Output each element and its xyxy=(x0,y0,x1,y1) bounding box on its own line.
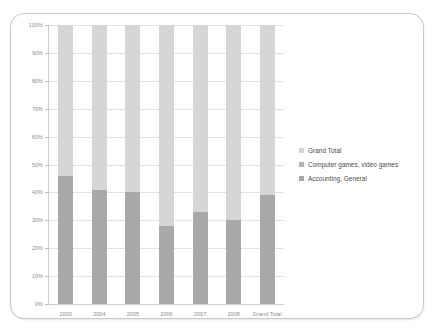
y-axis-label: 50% xyxy=(32,162,43,168)
bar-segment-lower[interactable] xyxy=(92,190,107,304)
x-axis-label: Grand Total xyxy=(253,311,282,317)
bar-slot: 2006 xyxy=(150,25,184,304)
legend-item-label: Accounting, General xyxy=(308,175,367,182)
y-axis-label: 100% xyxy=(29,22,43,28)
legend-item-label: Computer games, video games xyxy=(308,161,398,168)
y-axis-label: 0% xyxy=(35,301,43,307)
bar-segment-upper[interactable] xyxy=(260,25,275,195)
stacked-bar[interactable] xyxy=(92,25,107,304)
bar-segment-lower[interactable] xyxy=(125,192,140,304)
stacked-bar[interactable] xyxy=(226,25,241,304)
y-axis-label: 80% xyxy=(32,78,43,84)
bar-slot: 2004 xyxy=(83,25,117,304)
y-axis-tick xyxy=(45,304,49,305)
chart-legend: Grand TotalComputer games, video gamesAc… xyxy=(299,147,424,189)
y-axis-label: 60% xyxy=(32,134,43,140)
x-axis-label: 2007 xyxy=(194,311,206,317)
bar-slot: 2005 xyxy=(116,25,150,304)
legend-item[interactable]: Grand Total xyxy=(299,147,424,154)
bar-segment-lower[interactable] xyxy=(193,212,208,304)
legend-item[interactable]: Accounting, General xyxy=(299,175,424,182)
x-axis-label: 2003 xyxy=(60,311,72,317)
x-axis-label: 2004 xyxy=(93,311,105,317)
bar-segment-upper[interactable] xyxy=(226,25,241,220)
stacked-bar[interactable] xyxy=(260,25,275,304)
bar-slot: 2008 xyxy=(217,25,251,304)
bar-segment-upper[interactable] xyxy=(92,25,107,190)
plot-area: 0%10%20%30%40%50%60%70%80%90%100% 200320… xyxy=(49,25,284,304)
bar-segment-upper[interactable] xyxy=(58,25,73,176)
stacked-bar[interactable] xyxy=(58,25,73,304)
y-axis-label: 70% xyxy=(32,106,43,112)
x-axis-label: 2008 xyxy=(227,311,239,317)
y-axis-label: 40% xyxy=(32,189,43,195)
legend-swatch-icon xyxy=(299,162,304,167)
stacked-bar[interactable] xyxy=(159,25,174,304)
bar-segment-upper[interactable] xyxy=(193,25,208,212)
bar-slot: 2007 xyxy=(183,25,217,304)
y-axis-label: 90% xyxy=(32,50,43,56)
stacked-bar[interactable] xyxy=(125,25,140,304)
x-axis-label: 2005 xyxy=(127,311,139,317)
bar-slot: 2003 xyxy=(49,25,83,304)
bar-segment-lower[interactable] xyxy=(260,195,275,304)
bar-segment-upper[interactable] xyxy=(159,25,174,226)
bar-segment-lower[interactable] xyxy=(58,176,73,304)
y-axis-label: 20% xyxy=(32,245,43,251)
bar-slot: Grand Total xyxy=(250,25,284,304)
chart-card: 0%10%20%30%40%50%60%70%80%90%100% 200320… xyxy=(10,13,424,319)
x-axis-label: 2006 xyxy=(160,311,172,317)
chart-plot-wrapper: 0%10%20%30%40%50%60%70%80%90%100% 200320… xyxy=(11,14,425,320)
legend-swatch-icon xyxy=(299,148,304,153)
y-axis-label: 10% xyxy=(32,273,43,279)
legend-swatch-icon xyxy=(299,176,304,181)
bar-segment-lower[interactable] xyxy=(226,220,241,304)
legend-item[interactable]: Computer games, video games xyxy=(299,161,424,168)
bar-group: 200320042005200620072008Grand Total xyxy=(49,25,284,304)
bar-segment-upper[interactable] xyxy=(125,25,140,192)
legend-item-label: Grand Total xyxy=(308,147,341,154)
y-axis-label: 30% xyxy=(32,217,43,223)
gridline xyxy=(49,304,284,305)
bar-segment-lower[interactable] xyxy=(159,226,174,304)
stacked-bar[interactable] xyxy=(193,25,208,304)
